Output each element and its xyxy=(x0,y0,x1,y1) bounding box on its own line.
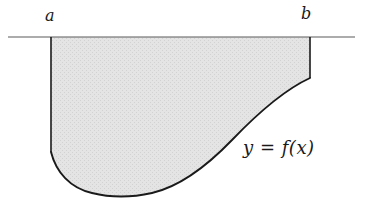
shaded-region xyxy=(51,37,310,196)
integral-area-figure xyxy=(0,0,367,221)
endpoint-label-a: a xyxy=(45,8,55,24)
endpoint-label-b: b xyxy=(301,6,311,22)
figure-canvas: a b y = f(x) xyxy=(0,0,367,221)
function-label: y = f(x) xyxy=(243,139,315,157)
